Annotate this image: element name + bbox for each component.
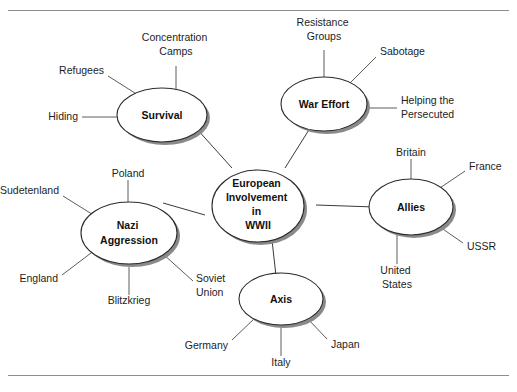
connector-war-effort-center [285,125,312,168]
leaf-concentration-camps-line-1: Camps [159,45,192,57]
leaf-label-japan: Japan [331,338,360,350]
node-nazi-aggression[interactable]: Nazi Aggression [81,202,180,267]
node-center-line-0: European [232,177,280,189]
leaf-soviet-union-line-0: Soviet [196,272,225,284]
node-nazi-aggression-line-1: Aggression [100,234,158,246]
node-center[interactable]: European Involvement in WWII [212,170,307,245]
node-center-line-1: Involvement [226,191,288,203]
leaf-label-concentration-camps: Concentration Camps [142,31,210,57]
leaf-label-soviet-union: Soviet Union [196,272,228,298]
leaf-label-england: England [19,272,58,284]
leaf-label-sabotage: Sabotage [380,45,425,57]
leaf-resistance-groups-line-1: Groups [307,30,341,42]
connector-nazi-aggression-center [163,203,205,215]
leaf-label-united-states: United States [380,264,413,290]
concept-map-figure: European Involvement in WWII Survival Wa… [0,0,517,392]
node-nazi-aggression-line-0: Nazi [117,219,139,231]
leaf-label-sudetenland: Sudetenland [0,184,59,196]
leaf-united-states-line-0: United [380,264,411,276]
figure-bottom-rule [8,375,509,376]
leaf-label-blitzkrieg: Blitzkrieg [108,294,151,306]
leaf-concentration-camps-line-0: Concentration [142,31,208,43]
leaf-label-france: France [469,160,502,172]
node-war-effort-label: War Effort [299,98,350,110]
leaf-helping-the-persecuted-line-0: Helping the [401,94,454,106]
leaf-resistance-groups-line-0: Resistance [297,16,349,28]
leaf-label-poland: Poland [112,167,145,179]
node-center-line-2: in [252,205,261,217]
connector-survival-center [196,128,232,168]
node-center-line-3: WWII [245,219,271,231]
leaf-label-germany: Germany [185,339,229,351]
node-war-effort[interactable]: War Effort [281,77,370,134]
leafline-sabotage [347,57,376,86]
leaf-united-states-line-1: States [382,278,412,290]
node-axis-label: Axis [270,293,292,305]
node-allies[interactable]: Allies [369,179,456,238]
leaf-soviet-union-line-1: Union [196,286,224,298]
node-survival-label: Survival [142,109,183,121]
leafline-germany [232,318,255,340]
leafline-england [62,250,95,275]
node-axis[interactable]: Axis [239,273,326,328]
leaf-label-helping-the-persecuted: Helping the Persecuted [401,94,457,120]
leafline-sudetenland [63,196,95,216]
concept-map-canvas: European Involvement in WWII Survival Wa… [0,0,517,392]
leaf-label-britain: Britain [396,146,426,158]
leaf-label-resistance-groups: Resistance Groups [297,16,352,42]
leaf-helping-the-persecuted-line-1: Persecuted [401,108,454,120]
node-survival[interactable]: Survival [117,88,210,145]
connector-allies-center [316,205,375,207]
leaf-label-ussr: USSR [467,240,497,252]
leaf-label-refugees: Refugees [59,64,104,76]
leaf-label-italy: Italy [271,356,291,368]
leafline-soviet-union [163,254,193,281]
leaf-label-hiding: Hiding [48,110,78,122]
node-allies-label: Allies [397,201,425,213]
